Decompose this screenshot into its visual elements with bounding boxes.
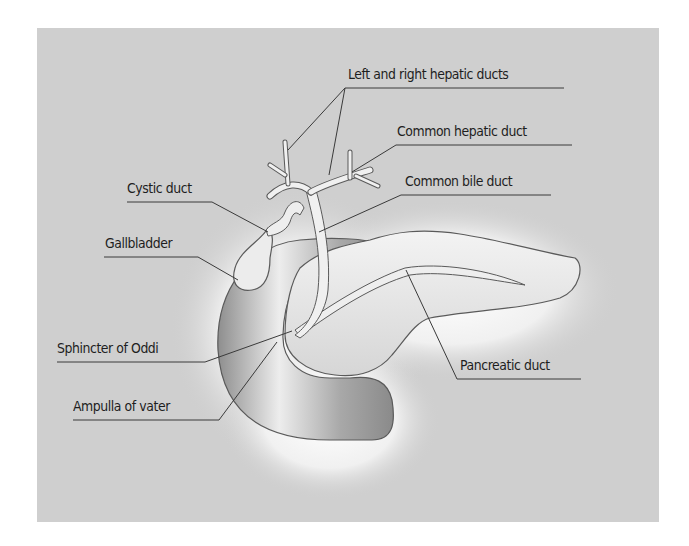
label-gallbladder: Gallbladder — [105, 236, 172, 251]
label-ampulla-of-vater: Ampulla of vater — [73, 399, 170, 414]
anatomy-illustration — [0, 0, 689, 546]
hepatic-ducts — [270, 142, 378, 196]
leader-left-right-hepatic — [288, 88, 564, 150]
leader-common-hepatic — [352, 145, 572, 172]
label-common-hepatic-duct: Common hepatic duct — [397, 124, 527, 139]
label-pancreatic-duct: Pancreatic duct — [460, 358, 550, 373]
label-common-bile-duct: Common bile duct — [405, 174, 512, 189]
label-cystic-duct: Cystic duct — [127, 181, 192, 196]
label-sphincter-of-oddi: Sphincter of Oddi — [57, 341, 158, 356]
label-left-right-hepatic-ducts: Left and right hepatic ducts — [348, 67, 508, 82]
